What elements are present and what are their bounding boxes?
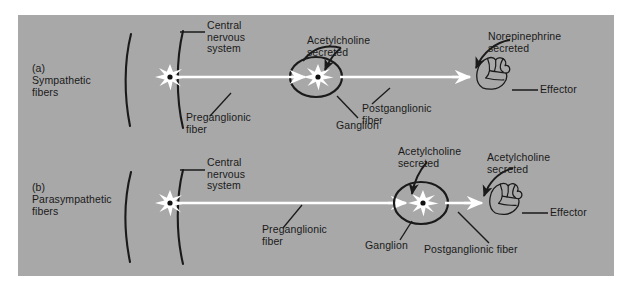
panel-b-acetylcholine-effector-label: Acetylcholine secreted — [487, 152, 550, 175]
panel-b-caption: (b) Parasympathetic fibers — [32, 182, 112, 217]
cns-arc-inner-a — [178, 31, 183, 128]
panel-b-cns-label: Central nervous system — [207, 157, 245, 192]
ganglion-leader-a — [337, 96, 358, 118]
panel-a-postganglionic-label: Postganglionic fiber — [362, 103, 432, 126]
figure-root: (a) Sympathetic fibers Central nervous s… — [0, 0, 638, 292]
panel-a-norepinephrine-label: Norepinephrine secreted — [488, 31, 561, 54]
panel-a-preganglionic-label: Preganglionic fiber — [186, 112, 251, 135]
panel-a-cns-label: Central nervous system — [207, 20, 245, 55]
cns-arc-outer-b — [126, 172, 131, 262]
ganglion-neuron-a — [303, 64, 334, 91]
effector-heart-b — [490, 184, 522, 215]
panel-a-acetylcholine-label: Acetylcholine secreted — [307, 35, 370, 58]
postganglionic-leader-b — [458, 212, 489, 243]
cns-arc-outer-a — [126, 34, 131, 126]
cns-neuron-a — [155, 64, 186, 91]
panel-b-effector-label: Effector — [550, 207, 587, 219]
cns-neuron-b — [155, 190, 186, 217]
cns-arc-inner-b — [178, 170, 183, 264]
panel-b-acetylcholine-ganglion-label: Acetylcholine secreted — [398, 146, 461, 169]
panel-a-caption: (a) Sympathetic fibers — [32, 63, 91, 98]
panel-b-preganglionic-label: Preganglionic fiber — [262, 224, 327, 247]
effector-heart-a — [477, 58, 510, 90]
ganglion-leader-b — [400, 221, 412, 240]
panel-b-ganglion-label: Ganglion — [365, 240, 408, 252]
panel-a-effector-label: Effector — [540, 84, 577, 96]
panel-b-postganglionic-label: Postganglionic fiber — [424, 244, 518, 256]
